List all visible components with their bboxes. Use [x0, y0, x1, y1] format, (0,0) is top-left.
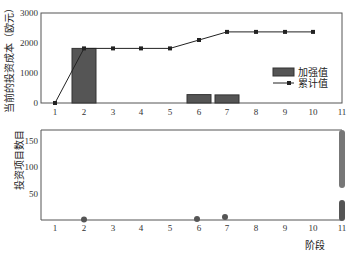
- top-y-ticks: 0 1000 2000 3000: [20, 8, 39, 108]
- bottom-chart: 50 100 150 1 2 3 4 5 6 7 8 9 10 11 投资项目数…: [13, 130, 346, 251]
- svg-text:0: 0: [34, 98, 39, 108]
- top-x-ticks: 1 2 3 4 5 6 7 8 9 10 11: [53, 107, 347, 117]
- bar-stage-2: [72, 48, 96, 103]
- points-stage-11-upper: [339, 130, 345, 188]
- svg-text:3: 3: [111, 223, 116, 233]
- svg-text:6: 6: [197, 223, 202, 233]
- svg-text:9: 9: [283, 107, 288, 117]
- svg-text:5: 5: [168, 223, 173, 233]
- svg-text:7: 7: [225, 107, 230, 117]
- bar-stage-7: [215, 95, 239, 103]
- svg-text:2: 2: [82, 223, 87, 233]
- point-stage-2: [81, 217, 87, 223]
- legend: 加强值 累计值: [273, 66, 328, 89]
- svg-text:1: 1: [53, 223, 58, 233]
- svg-text:5: 5: [168, 107, 173, 117]
- svg-text:10: 10: [309, 107, 319, 117]
- svg-text:8: 8: [254, 223, 259, 233]
- svg-text:4: 4: [139, 223, 144, 233]
- svg-text:2000: 2000: [20, 38, 39, 48]
- svg-text:10: 10: [309, 223, 319, 233]
- top-chart: 0 1000 2000 3000 1 2 3 4 5 6 7 8 9 10 11…: [3, 3, 346, 117]
- bottom-x-ticks: 1 2 3 4 5 6 7 8 9 10 11: [53, 223, 347, 233]
- svg-text:100: 100: [25, 162, 39, 172]
- bottom-x-axis-label: 阶段: [305, 239, 325, 251]
- svg-text:11: 11: [338, 223, 347, 233]
- svg-text:6: 6: [197, 107, 202, 117]
- svg-text:累计值: 累计值: [298, 77, 328, 89]
- svg-text:3: 3: [111, 107, 116, 117]
- svg-text:9: 9: [283, 223, 288, 233]
- svg-text:150: 150: [25, 136, 39, 146]
- svg-text:8: 8: [254, 107, 259, 117]
- bar-stage-6: [187, 95, 211, 103]
- points-stage-11-lower: [339, 200, 345, 221]
- svg-text:加强值: 加强值: [298, 66, 328, 78]
- point-stage-6: [194, 216, 200, 222]
- svg-text:3000: 3000: [20, 8, 39, 18]
- svg-text:2: 2: [82, 107, 87, 117]
- bottom-y-axis-label: 投资项目数目: [13, 130, 25, 190]
- svg-text:4: 4: [139, 107, 144, 117]
- figure: 0 1000 2000 3000 1 2 3 4 5 6 7 8 9 10 11…: [0, 0, 349, 256]
- bottom-y-ticks: 50 100 150: [25, 136, 39, 199]
- svg-text:7: 7: [225, 223, 230, 233]
- svg-text:1000: 1000: [20, 68, 39, 78]
- svg-text:50: 50: [29, 189, 39, 199]
- top-y-axis-label: 当前的投资成本（欧元）: [3, 3, 15, 113]
- svg-text:11: 11: [338, 107, 347, 117]
- point-stage-7: [222, 214, 228, 220]
- svg-text:1: 1: [53, 107, 58, 117]
